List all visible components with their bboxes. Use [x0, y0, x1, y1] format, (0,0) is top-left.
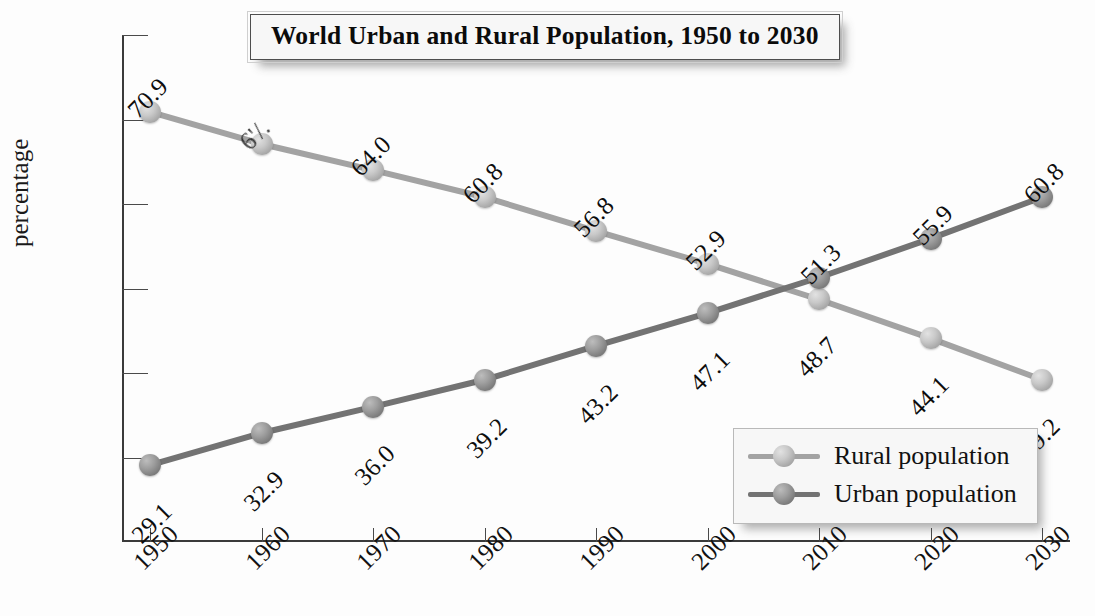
chart-title: World Urban and Rural Population, 1950 t…	[250, 14, 840, 60]
legend: Rural populationUrban population	[733, 428, 1038, 524]
legend-marker-icon	[773, 445, 795, 467]
chart-canvas: percentage 20304050607080195019601970198…	[0, 0, 1095, 616]
legend-item[interactable]: Urban population	[748, 475, 1017, 513]
legend-label: Urban population	[834, 479, 1017, 509]
legend-swatch	[748, 483, 820, 505]
legend-marker-icon	[773, 483, 795, 505]
legend-label: Rural population	[834, 441, 1009, 471]
legend-swatch	[748, 445, 820, 467]
legend-item[interactable]: Rural population	[748, 437, 1017, 475]
